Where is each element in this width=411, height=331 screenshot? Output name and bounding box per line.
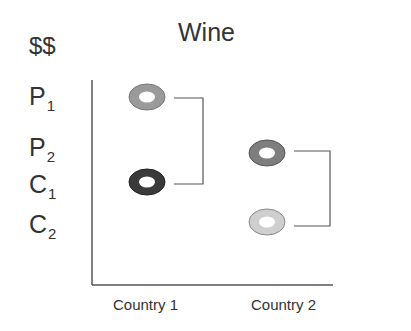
donut-country2-p2 [249,140,285,166]
donut-country1-c1 [129,169,165,195]
donut-country1-p1 [129,84,165,110]
bracket-country1 [174,98,203,184]
bracket-country2 [294,151,330,226]
x-label-country2: Country 2 [251,296,316,313]
donut-country2-c2 [249,209,285,235]
plot-area [0,0,411,331]
x-label-country1: Country 1 [113,296,178,313]
